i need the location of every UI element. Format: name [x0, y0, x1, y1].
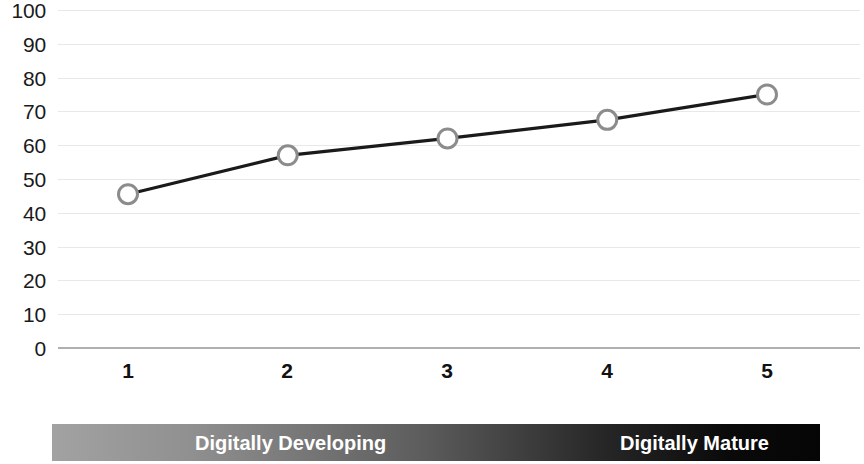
data-point-marker	[758, 85, 777, 104]
maturity-scale-bar: Digitally Developing Digitally Mature	[52, 424, 820, 461]
line-chart: 100 90 80 70 60 50 40 30 20 10 0 1 2 3 4…	[0, 0, 864, 464]
x-axis-tick-label: 2	[257, 360, 317, 381]
maturity-label-developing: Digitally Developing	[195, 433, 386, 453]
x-axis-tick-label: 4	[577, 360, 637, 381]
data-point-marker	[598, 110, 617, 129]
x-axis-tick-label: 1	[98, 360, 158, 381]
x-axis: 1 2 3 4 5	[0, 360, 864, 396]
data-point-marker	[119, 185, 138, 204]
x-axis-tick-label: 3	[417, 360, 477, 381]
data-point-marker	[438, 129, 457, 148]
data-series	[0, 0, 864, 400]
series-markers	[119, 85, 777, 204]
x-axis-tick-label: 5	[737, 360, 797, 381]
data-point-marker	[278, 146, 297, 165]
maturity-label-mature: Digitally Mature	[620, 433, 769, 453]
